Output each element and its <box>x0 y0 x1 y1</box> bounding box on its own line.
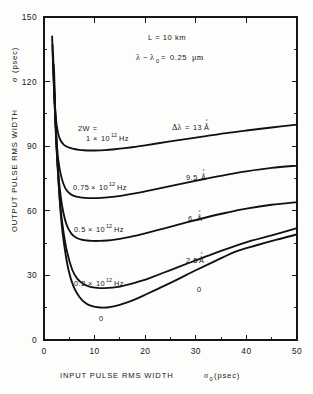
y-tick-label: 120 <box>22 77 37 87</box>
svg-text:0.75: 0.75 <box>73 183 89 192</box>
y-tick-label: 150 <box>22 12 37 22</box>
y-tick-label: 0 <box>32 335 37 345</box>
x-tick-label: 40 <box>241 346 251 356</box>
svg-text:Å: Å <box>199 256 204 265</box>
label-2w-1e12: 1 × 10 12 Hz <box>86 132 129 143</box>
svg-text:13: 13 <box>193 123 202 132</box>
figure-container: 030609012015001020304050 OUTPUT PULSE RM… <box>0 0 313 394</box>
svg-text:=: = <box>185 123 190 132</box>
svg-text:12: 12 <box>106 277 112 283</box>
svg-text:×: × <box>93 134 98 143</box>
svg-text:Hz: Hz <box>119 134 129 143</box>
axes-group <box>44 17 297 340</box>
svg-text:=: = <box>161 53 166 62</box>
curve-series-1 <box>53 45 297 198</box>
svg-text:0.25: 0.25 <box>170 53 187 62</box>
x-axis-title-subscript: 0 <box>210 376 213 382</box>
svg-text:2.5: 2.5 <box>186 256 198 265</box>
y-axis-title: OUTPUT PULSE RMS WIDTH σ (psec) <box>10 47 19 232</box>
plot-frame <box>44 17 297 340</box>
svg-text:Hz: Hz <box>114 279 124 288</box>
svg-text:(psec): (psec) <box>214 371 240 380</box>
label-2w-075e12: 0.75 × 10 12 Hz <box>73 181 127 192</box>
curve-series-2 <box>53 54 297 241</box>
svg-text:10: 10 <box>96 225 105 234</box>
svg-text:(psec): (psec) <box>10 47 19 73</box>
svg-text:12: 12 <box>106 223 112 229</box>
svg-text:σ: σ <box>10 77 19 82</box>
x-tick-label: 30 <box>191 346 201 356</box>
line-chart: 030609012015001020304050 OUTPUT PULSE RM… <box>0 0 313 394</box>
svg-text:×: × <box>91 183 96 192</box>
annotation-length: L = 10 km <box>148 33 186 42</box>
svg-text:×: × <box>88 279 93 288</box>
label-dl-zero: 0 <box>197 285 201 294</box>
curves-group <box>52 36 297 307</box>
svg-text:Δλ: Δλ <box>172 123 183 132</box>
x-axis-title-text: INPUT PULSE RMS WIDTH <box>60 371 173 380</box>
svg-text:−: − <box>143 53 148 62</box>
label-dl-95: 9.5 Å ° <box>186 168 206 182</box>
label-2w-02e12: 0.2 × 10 12 Hz <box>74 277 124 288</box>
x-axis-title: INPUT PULSE RMS WIDTH σ 0 (psec) <box>60 371 240 382</box>
label-dl-13: Δλ = 13 Å ° <box>172 118 209 132</box>
x-tick-label: 50 <box>292 346 302 356</box>
svg-text:0.2: 0.2 <box>74 279 86 288</box>
svg-text:Hz: Hz <box>117 183 127 192</box>
svg-text:Å: Å <box>204 123 209 132</box>
svg-text:10: 10 <box>101 134 110 143</box>
svg-text:μm: μm <box>192 53 204 62</box>
svg-text:λ: λ <box>150 53 155 62</box>
x-tick-label: 10 <box>90 346 100 356</box>
x-axis-title-units: (psec) <box>214 371 240 380</box>
y-tick-label: 60 <box>27 206 37 216</box>
y-tick-label: 30 <box>27 270 37 280</box>
svg-text:0.5: 0.5 <box>74 225 86 234</box>
svg-text:6: 6 <box>188 214 193 223</box>
label-source-width-header: 2W = <box>78 124 97 133</box>
svg-text:°: ° <box>203 168 205 174</box>
svg-text:10: 10 <box>96 279 105 288</box>
svg-text:σ: σ <box>204 371 209 380</box>
x-axis-title-symbol: σ <box>204 371 209 380</box>
svg-text:×: × <box>88 225 93 234</box>
svg-text:12: 12 <box>111 132 117 138</box>
y-tick-label: 90 <box>27 141 37 151</box>
svg-text:°: ° <box>206 118 208 124</box>
svg-text:Å: Å <box>197 214 202 223</box>
svg-text:1: 1 <box>86 134 91 143</box>
label-2w-05e12: 0.5 × 10 12 Hz <box>74 223 124 234</box>
svg-text:10: 10 <box>99 183 108 192</box>
svg-text:INPUT PULSE RMS WIDTH: INPUT PULSE RMS WIDTH <box>60 371 173 380</box>
annotation-wavelength: λ − λ 0 = 0.25 μm <box>136 53 204 64</box>
y-axis-title-text: OUTPUT PULSE RMS WIDTH <box>10 109 19 232</box>
label-2w-zero: 0 <box>99 314 103 323</box>
svg-text:0: 0 <box>156 58 159 64</box>
svg-text:12: 12 <box>109 181 115 187</box>
label-dl-25: 2.5 Å ° <box>186 251 204 265</box>
svg-text:0: 0 <box>210 376 213 382</box>
svg-text:9.5: 9.5 <box>186 173 198 182</box>
svg-text:Å: Å <box>201 173 206 182</box>
y-axis-title-units: (psec) <box>10 47 19 73</box>
x-tick-label: 20 <box>140 346 150 356</box>
curve-series-3 <box>54 64 297 288</box>
svg-text:°: ° <box>201 251 203 257</box>
x-tick-label: 0 <box>41 346 46 356</box>
svg-text:°: ° <box>199 209 201 215</box>
y-axis-title-symbol: σ <box>10 77 19 82</box>
svg-text:Hz: Hz <box>114 225 124 234</box>
svg-text:OUTPUT PULSE RMS WIDTH: OUTPUT PULSE RMS WIDTH <box>10 109 19 232</box>
ticks-group <box>44 17 297 340</box>
svg-text:λ: λ <box>136 53 141 62</box>
